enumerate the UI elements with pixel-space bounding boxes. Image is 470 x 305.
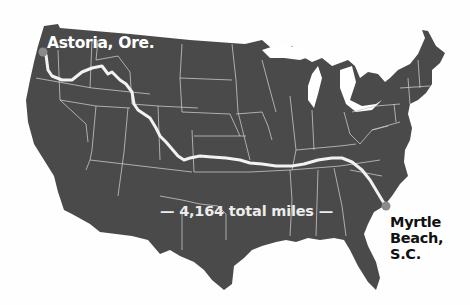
us-landmass [26,24,445,290]
route-map: Astoria, Ore. — 4,164 total miles — Myrt… [0,0,470,305]
end-marker [382,202,391,211]
end-city-line-1: Myrtle [390,214,470,230]
end-city-line-3: S.C. [390,246,470,262]
start-city-label: Astoria, Ore. [47,34,154,52]
end-city-label: Myrtle Beach, S.C. [390,214,470,262]
end-city-line-2: Beach, [390,230,470,246]
distance-label: — 4,164 total miles — [160,203,333,219]
